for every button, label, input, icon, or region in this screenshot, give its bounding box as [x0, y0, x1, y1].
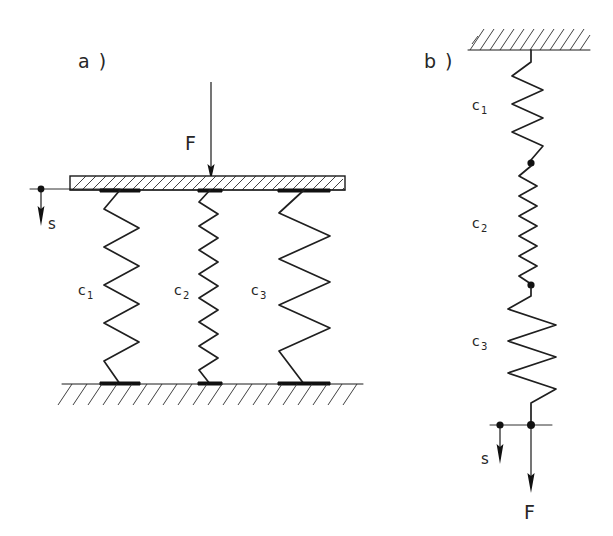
stiffness-letter-c1-a: c — [78, 282, 86, 298]
load-node-b — [527, 421, 535, 429]
force-arrow-a — [207, 82, 214, 180]
spring-c2-a — [199, 190, 218, 384]
spring-c1-a — [104, 190, 139, 384]
displacement-marker-b — [490, 421, 552, 464]
panel-b-caption: b ) — [424, 50, 454, 72]
stiffness-label-c1-a: c 1 — [78, 282, 93, 301]
force-label-a: F — [185, 132, 196, 154]
panel-b: b ) — [424, 29, 590, 523]
stiffness-letter-c1-b: c — [472, 97, 480, 113]
ceiling-hatching — [470, 29, 590, 50]
fixed-ground — [58, 382, 363, 405]
spring-c3-b — [508, 287, 556, 425]
reference-node-b — [496, 421, 503, 428]
stiffness-sub-c1-b: 1 — [481, 105, 487, 116]
rigid-plate — [70, 176, 345, 190]
stiffness-sub-c2-b: 2 — [481, 223, 487, 234]
stiffness-sub-c3-a: 3 — [260, 290, 266, 301]
panel-a: a ) F — [30, 50, 363, 405]
stiffness-letter-c2-b: c — [472, 215, 480, 231]
stiffness-label-c2-a: c 2 — [174, 282, 189, 301]
stiffness-sub-c2-a: 2 — [183, 290, 189, 301]
stiffness-sub-c3-b: 3 — [481, 341, 487, 352]
stiffness-letter-c3-b: c — [472, 333, 480, 349]
displacement-label-b: s — [481, 450, 489, 468]
spring-c3-a — [279, 190, 330, 384]
displacement-label-a: s — [48, 215, 56, 233]
figure-canvas: a ) F — [0, 0, 613, 536]
stiffness-label-c2-b: c 2 — [472, 215, 487, 234]
reference-node-a — [38, 186, 45, 193]
stiffness-sub-c1-a: 1 — [87, 290, 93, 301]
plate-attachment-points — [100, 189, 330, 192]
force-label-b: F — [524, 501, 535, 523]
stiffness-label-c3-a: c 3 — [251, 282, 266, 301]
spring-c1-b — [512, 50, 543, 164]
stiffness-label-c1-b: c 1 — [472, 97, 487, 116]
ground-hatching — [58, 384, 357, 405]
stiffness-letter-c3-a: c — [251, 282, 259, 298]
spring-system-figure: a ) F — [0, 0, 613, 536]
force-arrow-b — [527, 428, 534, 493]
stiffness-label-c3-b: c 3 — [472, 333, 487, 352]
stiffness-letter-c2-a: c — [174, 282, 182, 298]
panel-a-caption: a ) — [78, 50, 108, 72]
spring-c2-b — [519, 166, 537, 284]
fixed-ceiling — [468, 29, 590, 50]
